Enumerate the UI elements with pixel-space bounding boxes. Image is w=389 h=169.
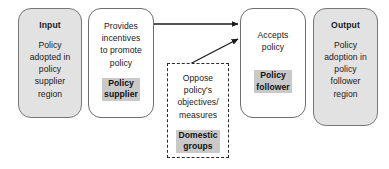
node-policy-supplier-body: Provides incentives to promote policy <box>100 20 142 69</box>
actor-label-domestic-groups: Domestic groups <box>176 130 219 153</box>
diagram-canvas: Input Policy adopted in policy supplier … <box>0 0 389 169</box>
node-policy-follower-body: Accepts policy <box>258 29 289 53</box>
node-input-body: Policy adopted in policy supplier region <box>30 39 71 100</box>
actor-label-policy-supplier: Policy supplier <box>102 78 140 101</box>
node-output-title: Output <box>331 20 360 31</box>
arrow-opposition-to-accepts <box>186 39 238 66</box>
node-policy-follower: Accepts policy Policy follower <box>240 8 306 118</box>
node-output-body: Policy adoption in policy follower regio… <box>324 39 367 100</box>
actor-label-policy-follower: Policy follower <box>254 70 291 93</box>
node-output: Output Policy adoption in policy followe… <box>313 8 378 126</box>
node-domestic-groups-body: Oppose policy's objectives/ measures <box>177 72 218 121</box>
node-input: Input Policy adopted in policy supplier … <box>18 8 82 118</box>
node-domestic-groups: Oppose policy's objectives/ measures Dom… <box>167 63 229 158</box>
node-policy-supplier: Provides incentives to promote policy Po… <box>88 8 154 118</box>
node-input-title: Input <box>39 20 61 31</box>
